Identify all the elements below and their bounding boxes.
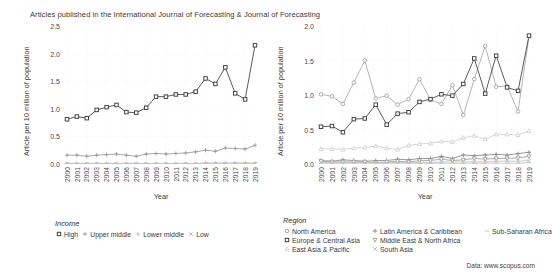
x-tick: 2014 — [471, 167, 478, 182]
legend-item-0[interactable]: North America — [283, 227, 371, 235]
legend-item-6[interactable]: Sub-Saharan Africa — [483, 227, 552, 235]
source-note: Data: www.scopus.com — [466, 262, 535, 269]
legend-item-5[interactable]: South Asia — [371, 245, 483, 253]
x-tick: 2013 — [192, 167, 199, 182]
x-tick: 2007 — [133, 167, 140, 182]
legend-item-1[interactable]: Europe & Central Asia — [283, 236, 371, 244]
x-tick: 2000 — [64, 167, 71, 182]
x-tick: 2005 — [372, 167, 379, 182]
legend-item-2[interactable]: Lower middle — [134, 230, 184, 238]
x-tick: 2008 — [143, 167, 150, 182]
y-tick: 0.5 — [50, 133, 60, 140]
x-tick: 2016 — [222, 167, 229, 182]
x-tick: 2011 — [438, 167, 445, 182]
left-y-tick-labels: 0.00.51.01.52.02.5 — [38, 26, 60, 164]
legend-item-4[interactable]: Middle East & North Africa — [371, 236, 483, 244]
left-x-axis-label: Year — [62, 192, 260, 201]
legend-row: North AmericaLatin America & CaribbeanSu… — [283, 227, 552, 235]
x-tick: 2018 — [515, 167, 522, 182]
legend-item-3[interactable]: Low — [187, 230, 209, 238]
y-tick: 2.0 — [50, 50, 60, 57]
legend-label: Sub-Saharan Africa — [492, 228, 552, 235]
x-tick: 2003 — [93, 167, 100, 182]
left-plot-area — [62, 26, 260, 164]
region-legend: Region North AmericaLatin America & Cari… — [283, 216, 552, 254]
legend-label: Low — [196, 231, 209, 238]
y-tick: 2.0 — [304, 23, 314, 30]
left-y-axis-label: Article per 10 million of population — [20, 26, 32, 176]
x-tick: 2014 — [202, 167, 209, 182]
legend-item-2[interactable]: East Asia & Pacific — [283, 245, 371, 253]
legend-item-1[interactable]: Upper middle — [81, 230, 131, 238]
x-tick: 2009 — [416, 167, 423, 182]
y-tick: 1.5 — [50, 78, 60, 85]
legend-label: South Asia — [380, 246, 413, 253]
region-panel: Article per 10 million of population 0.0… — [272, 26, 534, 216]
x-tick: 2001 — [329, 167, 336, 182]
x-tick: 2004 — [103, 167, 110, 182]
x-tick: 2019 — [526, 167, 533, 182]
x-tick: 2017 — [232, 167, 239, 182]
square-marker-icon — [283, 236, 291, 244]
x-tick: 2019 — [252, 167, 259, 182]
cross-marker-icon — [371, 245, 379, 253]
income-legend-title: Income — [55, 219, 212, 228]
x-tick: 2004 — [361, 167, 368, 182]
circle-marker-icon — [283, 227, 291, 235]
income-panel: Article per 10 million of population 0.0… — [18, 26, 270, 216]
y-tick: 0.5 — [304, 126, 314, 133]
legend-item-0[interactable]: High — [55, 230, 78, 238]
region-legend-title: Region — [283, 216, 552, 225]
x-tick: 2002 — [83, 167, 90, 182]
x-tick: 2016 — [493, 167, 500, 182]
x-tick: 2015 — [212, 167, 219, 182]
triangle-down-marker-icon — [371, 236, 379, 244]
y-tick: 1.0 — [304, 92, 314, 99]
y-tick: 1.5 — [304, 57, 314, 64]
x-tick: 2017 — [504, 167, 511, 182]
x-tick: 2011 — [173, 167, 180, 182]
legend-item-3[interactable]: Latin America & Caribbean — [371, 227, 483, 235]
x-tick: 2008 — [405, 167, 412, 182]
x-tick: 2010 — [427, 167, 434, 182]
legend-row: East Asia & PacificSouth Asia — [283, 245, 552, 253]
right-plot-area — [316, 26, 534, 164]
legend-label: Latin America & Caribbean — [380, 228, 462, 235]
plus-marker-icon — [81, 230, 89, 238]
x-tick: 2001 — [74, 167, 81, 182]
figure-title: Articles published in the International … — [30, 10, 320, 19]
x-tick: 2005 — [113, 167, 120, 182]
legend-label: High — [64, 231, 78, 238]
x-tick: 2013 — [460, 167, 467, 182]
legend-row: Europe & Central AsiaMiddle East & North… — [283, 236, 552, 244]
x-tick: 2006 — [123, 167, 130, 182]
plus-marker-icon — [371, 227, 379, 235]
triangle-marker-icon — [283, 245, 291, 253]
region-legend-items: North AmericaLatin America & CaribbeanSu… — [283, 227, 552, 253]
right-x-axis-label: Year — [316, 192, 534, 201]
x-tick: 2012 — [182, 167, 189, 182]
y-tick: 0.0 — [304, 161, 314, 168]
legend-label: East Asia & Pacific — [292, 246, 349, 253]
legend-label: Middle East & North Africa — [380, 237, 460, 244]
x-tick: 2000 — [318, 167, 325, 182]
right-y-axis-label: Article per 10 million of population — [274, 26, 286, 176]
income-legend: Income HighUpper middleLower middleLow — [55, 219, 212, 238]
x-tick: 2006 — [383, 167, 390, 182]
square-marker-icon — [55, 230, 63, 238]
legend-label: Upper middle — [90, 231, 131, 238]
plus-marker-icon — [134, 230, 142, 238]
x-tick: 2002 — [340, 167, 347, 182]
x-tick: 2018 — [242, 167, 249, 182]
y-tick: 2.5 — [50, 23, 60, 30]
right-y-tick-labels: 0.00.51.01.52.0 — [292, 26, 314, 164]
y-tick: 0.0 — [50, 161, 60, 168]
legend-label: Lower middle — [143, 231, 184, 238]
x-tick: 2015 — [482, 167, 489, 182]
x-tick: 2003 — [351, 167, 358, 182]
legend-label: North America — [292, 228, 336, 235]
legend-label: Europe & Central Asia — [292, 237, 360, 244]
income-legend-items: HighUpper middleLower middleLow — [55, 230, 212, 238]
cross-marker-icon — [187, 230, 195, 238]
